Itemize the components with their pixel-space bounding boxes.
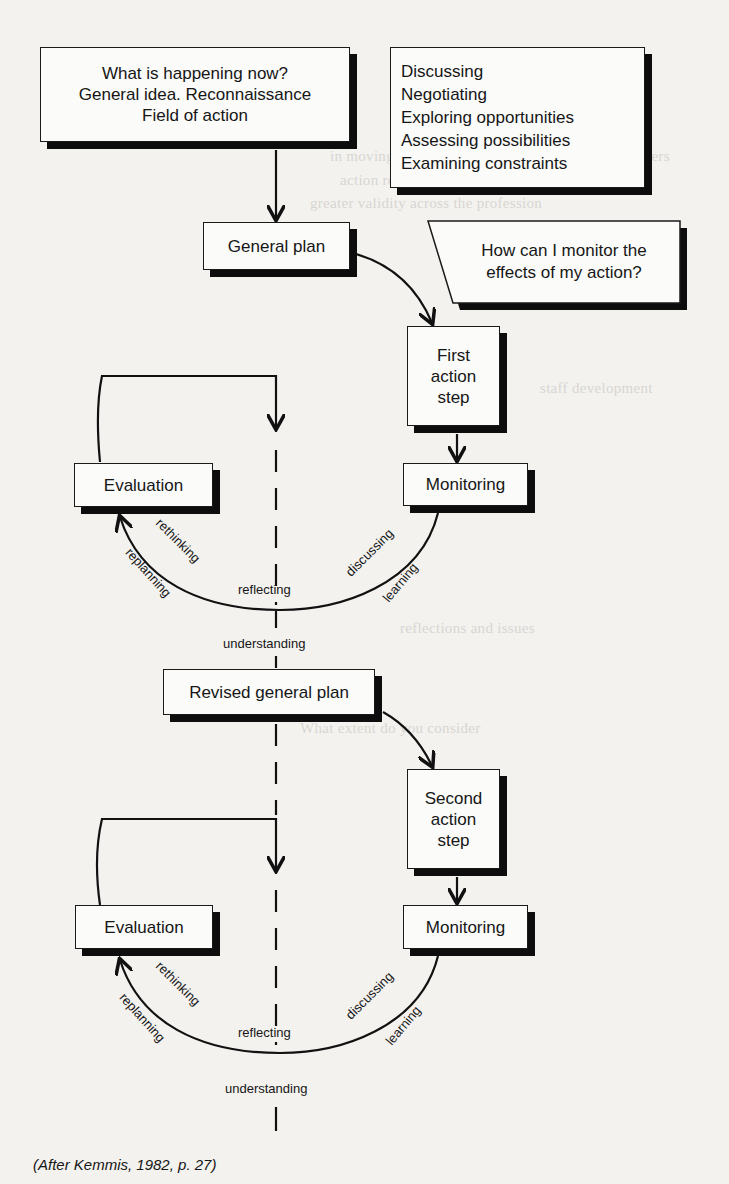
label-reflecting: reflecting: [238, 582, 291, 597]
monitoring-text: Monitoring: [426, 917, 505, 938]
activity-item: Negotiating: [401, 83, 574, 106]
monitoring-box-2: Monitoring: [403, 905, 528, 949]
start-box-text: What is happening now? General idea. Rec…: [79, 63, 311, 126]
activity-item: Exploring opportunities: [401, 106, 574, 129]
start-box: What is happening now? General idea. Rec…: [40, 47, 350, 142]
revised-general-plan-box: Revised general plan: [163, 669, 375, 715]
evaluation-text: Evaluation: [104, 917, 183, 938]
label-reflecting: reflecting: [238, 1025, 291, 1040]
label-understanding: understanding: [223, 636, 305, 651]
monitor-question: How can I monitor the effects of my acti…: [448, 240, 680, 284]
monitoring-box-1: Monitoring: [403, 463, 528, 506]
activity-item: Discussing: [401, 60, 574, 83]
activities-box: Discussing Negotiating Exploring opportu…: [390, 47, 645, 188]
general-plan-text: General plan: [228, 236, 325, 257]
monitoring-text: Monitoring: [426, 474, 505, 495]
second-action-step-text: Second action step: [425, 788, 483, 851]
label-understanding: understanding: [225, 1081, 307, 1096]
general-plan-box: General plan: [203, 222, 350, 270]
first-action-step-box: First action step: [407, 326, 500, 426]
evaluation-box-2: Evaluation: [75, 905, 213, 949]
evaluation-box-1: Evaluation: [74, 463, 213, 507]
revised-general-plan-text: Revised general plan: [189, 682, 349, 703]
activity-item: Assessing possibilities: [401, 129, 574, 152]
activity-item: Examining constraints: [401, 152, 574, 175]
first-action-step-text: First action step: [431, 345, 476, 408]
figure-caption: (After Kemmis, 1982, p. 27): [33, 1156, 216, 1173]
evaluation-text: Evaluation: [104, 475, 183, 496]
second-action-step-box: Second action step: [407, 769, 500, 869]
